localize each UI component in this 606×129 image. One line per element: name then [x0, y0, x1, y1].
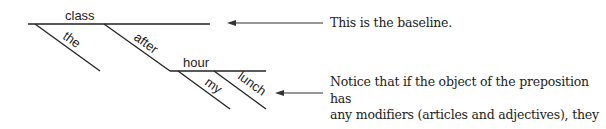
modifier-arrowhead-icon	[275, 90, 284, 96]
modifier-note-line-2: any modifiers (articles and adjectives),…	[330, 107, 606, 129]
preposition-diagonal	[104, 24, 170, 71]
word-hour: hour	[183, 55, 210, 70]
word-class: class	[65, 8, 95, 23]
word-my: my	[202, 74, 225, 97]
baseline-arrowhead-icon	[227, 20, 236, 26]
baseline-note: This is the baseline.	[330, 15, 452, 32]
modifier-note: Notice that if the object of the preposi…	[330, 74, 606, 129]
word-after: after	[131, 29, 161, 57]
word-the: the	[60, 28, 83, 51]
baseline-note-text: This is the baseline.	[330, 15, 452, 30]
word-lunch: lunch	[235, 68, 269, 98]
modifier-note-line-1: Notice that if the object of the preposi…	[330, 74, 606, 107]
